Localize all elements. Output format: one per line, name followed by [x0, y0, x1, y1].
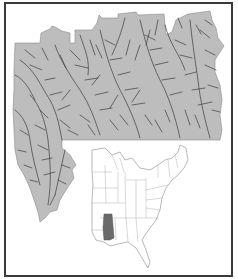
map-figure [0, 0, 238, 279]
highlighted-study-area [103, 214, 114, 240]
inset-locator-map [92, 145, 188, 268]
us-east-outline [92, 145, 188, 268]
